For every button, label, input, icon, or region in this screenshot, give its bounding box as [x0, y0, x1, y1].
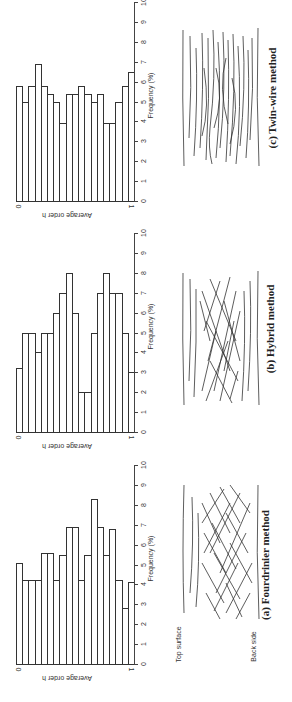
y-tick-label: 5 [140, 560, 148, 570]
panel-title-hybrid: (b) Hybrid method [264, 285, 276, 374]
y-tick-mark [134, 545, 138, 546]
frequency-axis-label: Frequency (%) [147, 304, 154, 350]
y-tick-label: 4 [140, 579, 148, 589]
x-tick-1: 1 [128, 436, 135, 440]
y-tick-mark [134, 465, 138, 466]
y-tick-mark [134, 584, 138, 585]
y-tick-mark [134, 22, 138, 23]
y-tick-label: 10 [140, 460, 148, 470]
y-tick-label: 2 [140, 387, 148, 397]
y-tick-label: 6 [140, 77, 148, 87]
y-tick-label: 3 [140, 367, 148, 377]
y-tick-label: 3 [140, 136, 148, 146]
y-tick-mark [134, 293, 138, 294]
y-tick-label: 10 [140, 0, 148, 7]
frequency-axis-label: Frequency (%) [147, 73, 154, 119]
y-tick-label: 7 [140, 288, 148, 298]
y-tick-mark [134, 273, 138, 274]
histogram-twin-wire [16, 2, 134, 201]
x-tick-0: 0 [15, 436, 22, 440]
y-tick-label: 7 [140, 520, 148, 530]
y-tick-mark [134, 392, 138, 393]
y-tick-label: 4 [140, 116, 148, 126]
y-tick-label: 0 [140, 196, 148, 206]
y-tick-mark [134, 644, 138, 645]
y-tick-label: 5 [140, 328, 148, 338]
y-tick-mark [134, 62, 138, 63]
y-tick-label: 1 [140, 639, 148, 649]
y-tick-mark [134, 664, 138, 665]
fiber-diagram-twin-wire [180, 28, 260, 168]
y-tick-mark [134, 102, 138, 103]
frequency-axis-label: Frequency (%) [147, 536, 154, 582]
panel-title-fourdrinier: (a) Fourdrinier method [259, 510, 271, 620]
y-tick-label: 8 [140, 268, 148, 278]
y-tick-label: 7 [140, 57, 148, 67]
fiber-diagram-hybrid [180, 271, 260, 407]
y-tick-label: 5 [140, 97, 148, 107]
y-tick-mark [134, 604, 138, 605]
histogram-fourdrinier [16, 465, 134, 664]
x-axis-label: Average order h [42, 212, 92, 219]
y-tick-mark [134, 565, 138, 566]
y-tick-label: 0 [140, 427, 148, 437]
y-tick-mark [134, 412, 138, 413]
histogram-hybrid [16, 233, 134, 432]
y-tick-mark [134, 2, 138, 3]
y-tick-mark [134, 333, 138, 334]
y-tick-label: 8 [140, 37, 148, 47]
top-surface-label: Top surface [175, 626, 182, 662]
y-tick-mark [134, 313, 138, 314]
y-tick-label: 0 [140, 659, 148, 669]
fiber-diagram-fourdrinier [180, 483, 260, 623]
y-tick-mark [134, 432, 138, 433]
x-axis-label: Average order h [42, 675, 92, 682]
y-tick-mark [134, 82, 138, 83]
panel-title-twin-wire: (c) Twin-wire method [266, 48, 278, 149]
y-tick-label: 6 [140, 540, 148, 550]
y-tick-label: 2 [140, 156, 148, 166]
y-tick-mark [134, 121, 138, 122]
x-tick-1: 1 [128, 205, 135, 209]
y-tick-mark [134, 233, 138, 234]
x-tick-1: 1 [128, 668, 135, 672]
panel-fourdrinier: Frequency (%) 0 1 Average order h Top su… [0, 463, 292, 702]
y-tick-label: 3 [140, 599, 148, 609]
panel-twin-wire: Frequency (%) 0 1 Average order h (c) Tw… [0, 0, 292, 232]
y-tick-label: 1 [140, 176, 148, 186]
y-tick-label: 8 [140, 500, 148, 510]
y-tick-label: 2 [140, 619, 148, 629]
back-side-label: Back side [250, 631, 257, 661]
y-tick-mark [134, 253, 138, 254]
y-tick-mark [134, 181, 138, 182]
y-tick-mark [134, 505, 138, 506]
y-tick-mark [134, 485, 138, 486]
y-tick-label: 9 [140, 248, 148, 258]
y-tick-label: 9 [140, 480, 148, 490]
y-tick-mark [134, 525, 138, 526]
x-tick-0: 0 [15, 205, 22, 209]
y-tick-mark [134, 141, 138, 142]
y-tick-mark [134, 42, 138, 43]
x-tick-0: 0 [15, 668, 22, 672]
y-tick-mark [134, 161, 138, 162]
y-tick-label: 1 [140, 407, 148, 417]
y-tick-label: 4 [140, 347, 148, 357]
y-tick-mark [134, 352, 138, 353]
y-tick-mark [134, 372, 138, 373]
y-tick-label: 9 [140, 17, 148, 27]
y-tick-label: 6 [140, 308, 148, 318]
y-tick-mark [134, 624, 138, 625]
panel-hybrid: Frequency (%) 0 1 Average order h (b) Hy… [0, 231, 292, 463]
y-tick-mark [134, 201, 138, 202]
y-tick-label: 10 [140, 228, 148, 238]
x-axis-label: Average order h [42, 443, 92, 450]
